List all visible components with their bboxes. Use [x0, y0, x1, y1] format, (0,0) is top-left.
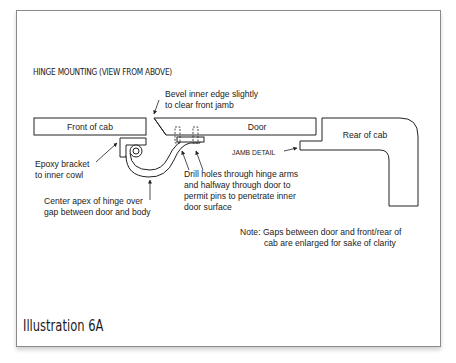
rear-of-cab-panel: Rear of cab: [300, 118, 418, 206]
note-line2: cab are enlarged for sake of clarity: [264, 238, 397, 248]
bevel-note-line2: to clear front jamb: [165, 100, 234, 110]
drill-note-line4: door surface: [184, 202, 232, 212]
drill-note-line1: Drill holes through hinge arms: [184, 169, 298, 179]
center-note-line1: Center apex of hinge over: [44, 196, 143, 206]
center-note-line2: gap between door and body: [44, 207, 151, 217]
drill-leader-2: [196, 151, 203, 170]
door-label: Door: [248, 122, 267, 132]
epoxy-leader: [96, 143, 117, 162]
door-panel: Door: [154, 118, 316, 135]
front-of-cab-label: Front of cab: [67, 122, 113, 132]
note-line1: Note: Gaps between door and front/rear o…: [240, 227, 402, 237]
drill-note-line2: and halfway through door to: [184, 180, 291, 190]
jamb-leader: [284, 148, 297, 151]
bevel-leader: [154, 100, 159, 114]
jamb-detail-label: JAMB DETAIL: [232, 149, 276, 156]
epoxy-note-line2: to inner cowl: [35, 170, 83, 180]
epoxy-note-line1: Epoxy bracket: [35, 159, 90, 169]
drill-note-line3: permit pins to penetrate inner: [184, 191, 296, 201]
rear-of-cab-label: Rear of cab: [343, 130, 388, 140]
illustration-caption: Illustration 6A: [23, 316, 103, 335]
drill-leader-1: [182, 151, 189, 170]
hinge-diagram: Front of cab Door Rear of cab Bevel inne…: [0, 0, 456, 363]
bevel-note-line1: Bevel inner edge slightly: [165, 89, 259, 99]
front-of-cab-panel: Front of cab: [34, 118, 146, 135]
